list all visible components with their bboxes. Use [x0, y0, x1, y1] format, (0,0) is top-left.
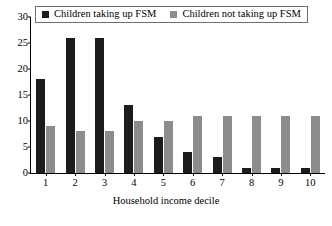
x-axis-title: Household income decile [0, 196, 332, 207]
legend-label-series-0: Children taking up FSM [54, 9, 156, 20]
y-axis-tick-mark [28, 95, 31, 96]
bar-series-0-category-7 [213, 157, 222, 173]
x-axis-tick-mark [222, 173, 223, 176]
bar-series-1-category-1 [46, 126, 55, 173]
x-axis-tick-mark [134, 173, 135, 176]
y-axis-tick-mark [28, 43, 31, 44]
bar-series-0-category-9 [271, 168, 280, 173]
bar-series-0-category-4 [124, 105, 133, 173]
bar-series-0-category-10 [301, 168, 310, 173]
x-axis-tick-label: 4 [131, 178, 136, 189]
legend-swatch-icon-series-1 [170, 11, 177, 18]
y-axis-tick-label: 20 [18, 64, 29, 75]
bar-series-0-category-8 [242, 168, 251, 173]
y-axis-tick-label: 25 [18, 38, 29, 49]
bar-series-1-category-5 [164, 121, 173, 173]
x-axis-tick-label: 2 [72, 178, 77, 189]
y-axis-tick-mark [28, 69, 31, 70]
x-axis-tick-label: 3 [102, 178, 107, 189]
bar-series-1-category-4 [134, 121, 143, 173]
bar-series-1-category-10 [311, 116, 320, 173]
x-axis-tick-mark [105, 173, 106, 176]
x-axis-tick-mark [281, 173, 282, 176]
bar-series-0-category-2 [66, 38, 75, 173]
x-axis-tick-label: 9 [278, 178, 283, 189]
bar-series-1-category-9 [281, 116, 290, 173]
bar-series-1-category-8 [252, 116, 261, 173]
x-axis-tick-label: 6 [190, 178, 195, 189]
legend-label-series-1: Children not taking up FSM [182, 9, 300, 20]
legend-item-taking-up-fsm: Children taking up FSM [42, 9, 156, 20]
x-axis-tick-label: 10 [305, 178, 316, 189]
plot-area: 051015202530 12345678910 [30, 17, 325, 174]
y-axis-tick-mark [28, 121, 31, 122]
x-axis-tick-mark [252, 173, 253, 176]
x-axis-tick-label: 1 [43, 178, 48, 189]
x-axis-tick-mark [193, 173, 194, 176]
y-axis-tick-mark [28, 173, 31, 174]
bar-series-0-category-5 [154, 137, 163, 173]
bar-series-0-category-3 [95, 38, 104, 173]
chart-legend: Children taking up FSM Children not taki… [35, 6, 308, 23]
bar-series-0-category-6 [183, 152, 192, 173]
legend-item-not-taking-up-fsm: Children not taking up FSM [170, 9, 300, 20]
y-axis-tick-mark [28, 17, 31, 18]
bar-chart: 051015202530 12345678910 Children taking… [0, 0, 332, 226]
x-axis-tick-label: 5 [161, 178, 166, 189]
bar-series-1-category-3 [105, 131, 114, 173]
y-axis-tick-mark [28, 147, 31, 148]
y-axis-tick-label: 15 [18, 90, 29, 101]
x-axis-tick-label: 7 [219, 178, 224, 189]
x-axis-tick-label: 8 [249, 178, 254, 189]
x-axis-tick-mark [75, 173, 76, 176]
bar-series-0-category-1 [36, 79, 45, 173]
bar-series-1-category-6 [193, 116, 202, 173]
x-axis-tick-mark [163, 173, 164, 176]
y-axis-tick-label: 10 [18, 116, 29, 127]
bar-series-1-category-2 [76, 131, 85, 173]
y-axis-tick-label: 30 [18, 12, 29, 23]
x-axis-tick-mark [46, 173, 47, 176]
legend-swatch-icon-series-0 [42, 11, 49, 18]
bar-series-1-category-7 [223, 116, 232, 173]
x-axis-tick-mark [310, 173, 311, 176]
